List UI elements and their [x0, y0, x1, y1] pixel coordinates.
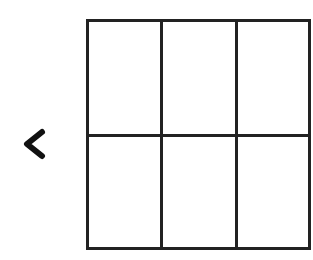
grid-cell[interactable]	[163, 22, 238, 137]
back-button[interactable]	[18, 124, 50, 164]
grid-cell[interactable]	[163, 137, 238, 247]
grid-cell[interactable]	[238, 137, 308, 247]
grid-3x2	[86, 19, 311, 250]
chevron-left-icon	[18, 124, 50, 164]
grid-cell[interactable]	[89, 22, 163, 137]
grid-cell[interactable]	[238, 22, 308, 137]
grid-cell[interactable]	[89, 137, 163, 247]
